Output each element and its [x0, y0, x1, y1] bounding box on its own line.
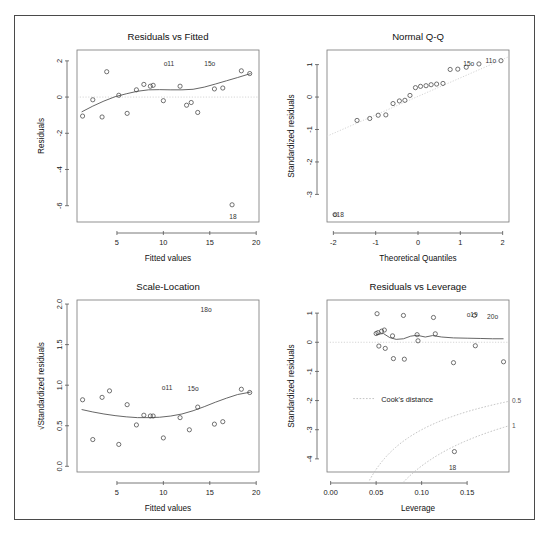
- data-points: [374, 312, 506, 454]
- x-tick-label: 15: [206, 488, 214, 497]
- data-point: [212, 422, 216, 426]
- data-point: [477, 62, 481, 66]
- x-tick-label: 0.10: [414, 488, 428, 497]
- point-label: 18: [229, 213, 237, 220]
- y-tick-label: -2: [305, 397, 314, 404]
- y-tick-label: 1.5: [55, 339, 64, 349]
- plot-title: Residuals vs Fitted: [127, 31, 208, 42]
- x-axis-label: Fitted values: [145, 504, 191, 513]
- data-point: [501, 360, 505, 364]
- data-point: [80, 114, 84, 118]
- y-axis-label: Standardized residuals: [287, 344, 296, 427]
- point-label: o19: [467, 311, 478, 318]
- data-point: [401, 313, 405, 317]
- point-label: 18o: [201, 306, 212, 313]
- point-label: o11: [162, 384, 173, 391]
- lowess-smooth-line: [376, 334, 503, 340]
- y-tick-label: -4: [55, 166, 64, 173]
- data-point: [435, 82, 439, 86]
- y-tick-label: 1: [305, 311, 314, 315]
- data-point: [384, 113, 388, 117]
- data-point: [212, 87, 216, 91]
- data-point: [413, 86, 417, 90]
- data-point: [429, 83, 433, 87]
- data-points: [333, 59, 503, 217]
- data-point: [134, 423, 138, 427]
- data-point: [377, 344, 381, 348]
- plot-box: [327, 50, 509, 222]
- x-tick-label: 0.15: [460, 488, 474, 497]
- point-label: o11: [164, 60, 175, 67]
- data-point: [151, 83, 155, 87]
- point-label: 15o: [204, 60, 215, 67]
- y-tick-label: -3: [305, 191, 314, 198]
- data-point: [221, 86, 225, 90]
- lowess-smooth-line: [82, 392, 251, 418]
- point-label: 18: [449, 464, 457, 471]
- y-tick-label: 1.0: [55, 380, 64, 390]
- x-tick-label: 15: [206, 238, 214, 247]
- y-tick-label: 1: [305, 63, 314, 67]
- y-axis-label: Standardized residuals: [287, 94, 296, 177]
- plot-residuals-vs-leverage: Residuals vs Leverage0.000.050.100.15Lev…: [283, 274, 519, 516]
- y-tick-label: 0.5: [55, 421, 64, 431]
- panel-normal-qq: Normal Q-Q-2-1012Theoretical Quantiles10…: [283, 24, 519, 266]
- data-point: [100, 115, 104, 119]
- plot-scale-location: Scale-Location5101520Fitted values0.00.5…: [33, 274, 269, 516]
- data-point: [178, 416, 182, 420]
- data-point: [125, 111, 129, 115]
- plot-residuals-vs-fitted: Residuals vs Fitted5101520Fitted values2…: [33, 24, 269, 266]
- data-point: [196, 405, 200, 409]
- cooks-distance-level-label: 0.5: [512, 397, 521, 404]
- x-tick-label: 10: [159, 238, 167, 247]
- data-point: [91, 437, 95, 441]
- x-tick-label: 5: [115, 238, 119, 247]
- data-point: [380, 329, 384, 333]
- cooks-distance-curve: [403, 426, 509, 483]
- data-point: [239, 69, 243, 73]
- y-tick-label: -4: [305, 456, 314, 463]
- figure-frame: Residuals vs Fitted5101520Fitted values2…: [14, 15, 535, 520]
- y-tick-label: -2: [55, 130, 64, 137]
- data-point: [125, 403, 129, 407]
- data-point: [142, 413, 146, 417]
- data-point: [383, 346, 387, 350]
- panel-residuals-vs-leverage: Residuals vs Leverage0.000.050.100.15Lev…: [283, 274, 519, 516]
- data-point: [196, 110, 200, 114]
- y-tick-label: 2.0: [55, 299, 64, 309]
- data-point: [473, 344, 477, 348]
- data-point: [221, 420, 225, 424]
- x-tick-label: 20: [252, 488, 260, 497]
- cooks-distance-level-label: 1: [512, 422, 516, 429]
- data-point: [424, 84, 428, 88]
- data-point: [187, 428, 191, 432]
- data-point: [80, 398, 84, 402]
- point-label: 11o: [486, 57, 497, 64]
- data-point: [178, 84, 182, 88]
- x-tick-label: 0: [416, 238, 420, 247]
- data-point: [416, 339, 420, 343]
- plot-title: Residuals vs Leverage: [369, 281, 466, 292]
- data-point: [376, 113, 380, 117]
- data-point: [239, 387, 243, 391]
- data-point: [91, 98, 95, 102]
- x-tick-label: 1: [458, 238, 462, 247]
- data-point: [415, 333, 419, 337]
- data-point: [418, 84, 422, 88]
- plot-title: Normal Q-Q: [392, 31, 444, 42]
- plot-box: [77, 50, 259, 222]
- data-point: [431, 315, 435, 319]
- x-tick-label: 0.05: [369, 488, 383, 497]
- data-point: [391, 357, 395, 361]
- data-point: [107, 389, 111, 393]
- x-axis-label: Fitted values: [145, 254, 191, 263]
- x-tick-label: -1: [372, 238, 379, 247]
- x-tick-label: 20: [252, 238, 260, 247]
- y-tick-label: -1: [305, 368, 314, 375]
- data-point: [391, 101, 395, 105]
- data-point: [390, 334, 394, 338]
- qq-reference-line: [327, 57, 509, 137]
- data-point: [448, 67, 452, 71]
- data-point: [441, 81, 445, 85]
- data-point: [161, 436, 165, 440]
